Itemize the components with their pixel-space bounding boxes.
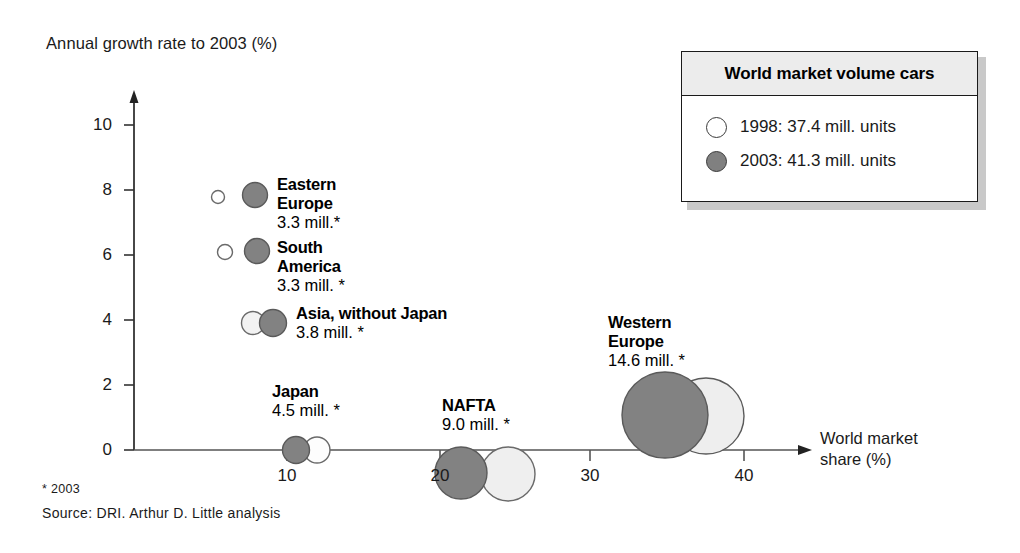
legend-label-2003: 2003: 41.3 mill. units (740, 151, 896, 171)
legend-swatch-2003-icon (706, 151, 727, 172)
y-tick-2: 2 (78, 375, 112, 395)
x-axis-title-line1: World market (820, 429, 918, 447)
label-asia: Asia, without Japan 3.8 mill. * (296, 304, 447, 342)
x-tick-40: 40 (724, 466, 764, 486)
legend-body: 1998: 37.4 mill. units 2003: 41.3 mill. … (682, 96, 977, 178)
x-tick-10: 10 (267, 466, 307, 486)
legend-header: World market volume cars (682, 52, 977, 96)
y-tick-4: 4 (78, 310, 112, 330)
bubble-eastern-europe-1998 (212, 191, 225, 204)
bubble-south-america-1998 (218, 245, 233, 260)
label-western-europe-name1: Western (608, 313, 685, 332)
label-south-america-name1: South (277, 238, 345, 257)
label-japan-value: 4.5 mill. * (272, 401, 340, 420)
label-asia-name: Asia, without Japan (296, 304, 447, 323)
label-eastern-europe-name1: Eastern (277, 175, 340, 194)
label-eastern-europe: Eastern Europe 3.3 mill.* (277, 175, 340, 232)
x-axis-title: World market share (%) (820, 428, 918, 470)
x-axis-title-line2: share (%) (820, 450, 892, 468)
label-south-america-value: 3.3 mill. * (277, 276, 345, 295)
bubble-south-america-2003 (245, 239, 270, 264)
footnote-asterisk: * 2003 (42, 482, 80, 496)
label-eastern-europe-name2: Europe (277, 194, 340, 213)
label-japan-name: Japan (272, 382, 340, 401)
bubble-group-asia[interactable] (242, 310, 287, 337)
y-tick-8: 8 (78, 180, 112, 200)
legend-title: World market volume cars (725, 64, 935, 84)
label-western-europe-name2: Europe (608, 332, 685, 351)
chart-page: Annual growth rate to 2003 (%) (0, 0, 1020, 553)
y-tick-6: 6 (78, 245, 112, 265)
bubble-japan-2003 (283, 437, 310, 464)
label-western-europe: Western Europe 14.6 mill. * (608, 313, 685, 370)
bubble-eastern-europe-2003 (243, 183, 268, 208)
x-tick-20: 20 (420, 466, 460, 486)
label-nafta-value: 9.0 mill. * (442, 415, 510, 434)
y-tick-10: 10 (78, 115, 112, 135)
bubble-group-japan[interactable] (283, 437, 331, 464)
footnote-source: Source: DRI. Arthur D. Little analysis (42, 505, 281, 521)
legend-item-1998[interactable]: 1998: 37.4 mill. units (706, 110, 977, 144)
x-tick-30: 30 (570, 466, 610, 486)
label-nafta-name: NAFTA (442, 396, 510, 415)
label-asia-value: 3.8 mill. * (296, 323, 447, 342)
y-axis (124, 90, 139, 450)
legend-box: World market volume cars 1998: 37.4 mill… (681, 51, 978, 202)
bubble-group-western-europe[interactable] (622, 372, 744, 458)
bubble-nafta-1998 (481, 447, 535, 501)
legend-label-1998: 1998: 37.4 mill. units (740, 117, 896, 137)
bubble-group-south-america[interactable] (218, 239, 270, 264)
bubble-western-europe-2003 (622, 372, 708, 458)
label-western-europe-value: 14.6 mill. * (608, 351, 685, 370)
label-south-america-name2: America (277, 257, 345, 276)
bubble-asia-2003 (260, 310, 287, 337)
label-nafta: NAFTA 9.0 mill. * (442, 396, 510, 434)
label-japan: Japan 4.5 mill. * (272, 382, 340, 420)
label-south-america: South America 3.3 mill. * (277, 238, 345, 295)
y-tick-0: 0 (78, 440, 112, 460)
legend-swatch-1998-icon (706, 117, 727, 138)
legend-item-2003[interactable]: 2003: 41.3 mill. units (706, 144, 977, 178)
label-eastern-europe-value: 3.3 mill.* (277, 213, 340, 232)
bubble-group-eastern-europe[interactable] (212, 183, 268, 208)
